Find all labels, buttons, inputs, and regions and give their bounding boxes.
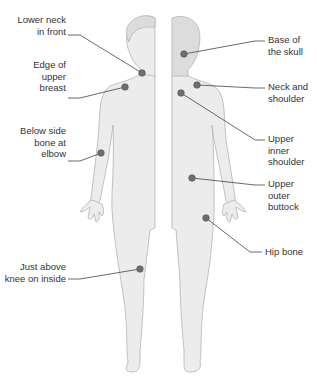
point-below-elbow [98, 150, 105, 157]
label-upper-inner-shoulder: Upper inner shoulder [268, 133, 317, 168]
label-upper-outer-buttock: Upper outer buttock [268, 178, 317, 213]
point-upper-inner-shoulder [178, 90, 185, 97]
point-upper-outer-buttock [189, 175, 196, 182]
label-hip-bone: Hip bone [265, 246, 303, 258]
label-base-of-skull: Base of the skull [268, 34, 303, 57]
back-view-figure [172, 17, 246, 373]
label-lower-neck-front: Lower neck in front [0, 14, 66, 37]
label-above-knee-inside: Just above knee on inside [0, 261, 66, 284]
label-below-side-bone-elbow: Below side bone at elbow [0, 125, 66, 160]
point-lower-neck-front [139, 70, 146, 77]
point-above-knee [137, 266, 144, 273]
front-view-figure [80, 16, 155, 372]
label-edge-upper-breast: Edge of upper breast [0, 59, 66, 94]
label-neck-and-shoulder: Neck and shoulder [268, 81, 308, 104]
point-edge-upper-breast [122, 84, 129, 91]
point-hip-bone [203, 215, 210, 222]
leader-line-hip [206, 218, 262, 252]
point-neck-shoulder [194, 82, 201, 89]
point-base-skull [181, 51, 188, 58]
